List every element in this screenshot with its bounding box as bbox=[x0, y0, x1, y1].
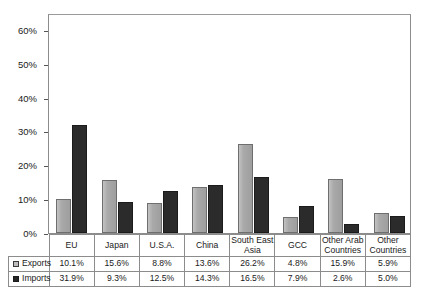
y-tick-label: 20% bbox=[18, 161, 37, 171]
bar-chart: 0%10%20%30%40%50%60% EUJapanU.S.A.ChinaS… bbox=[0, 0, 422, 299]
bar-imports bbox=[208, 185, 223, 233]
bar-imports bbox=[390, 216, 405, 233]
category-label-cell: U.S.A. bbox=[139, 235, 184, 257]
legend-item-exports[interactable]: Exports bbox=[9, 257, 50, 272]
bar-group bbox=[94, 15, 139, 233]
bar-group bbox=[321, 15, 366, 233]
bar-exports bbox=[374, 213, 389, 233]
y-tick-label: 50% bbox=[18, 60, 37, 70]
legend-label: Exports bbox=[22, 258, 51, 268]
category-label-line: Countries bbox=[321, 246, 365, 256]
legend-swatch-icon bbox=[13, 276, 19, 282]
data-cell: 16.5% bbox=[230, 272, 275, 287]
category-label-cell: South EastAsia bbox=[230, 235, 275, 257]
data-cell: 15.9% bbox=[320, 257, 365, 272]
category-label-line: Countries bbox=[366, 246, 410, 256]
data-table-body: EUJapanU.S.A.ChinaSouth EastAsiaGCCOther… bbox=[9, 235, 411, 287]
category-label-line: China bbox=[185, 241, 229, 251]
data-cell: 15.6% bbox=[94, 257, 139, 272]
data-cell: 4.8% bbox=[275, 257, 320, 272]
category-label-cell: EU bbox=[49, 235, 94, 257]
category-label-line: EU bbox=[50, 241, 94, 251]
bar-group bbox=[185, 15, 230, 233]
category-header-row: EUJapanU.S.A.ChinaSouth EastAsiaGCCOther… bbox=[9, 235, 411, 257]
bar-group bbox=[367, 15, 412, 233]
category-label-line: Asia bbox=[230, 246, 274, 256]
data-cell: 8.8% bbox=[139, 257, 184, 272]
bar-imports bbox=[344, 224, 359, 233]
category-label-cell: OtherCountries bbox=[365, 235, 410, 257]
data-cell: 2.6% bbox=[320, 272, 365, 287]
category-label-line: Japan bbox=[95, 241, 139, 251]
table-row: Imports31.9%9.3%12.5%14.3%16.5%7.9%2.6%5… bbox=[9, 272, 411, 287]
data-cell: 14.3% bbox=[185, 272, 230, 287]
bar-exports bbox=[238, 144, 253, 233]
bar-group bbox=[49, 15, 94, 233]
data-cell: 9.3% bbox=[94, 272, 139, 287]
bar-exports bbox=[283, 217, 298, 233]
category-label-cell: Japan bbox=[94, 235, 139, 257]
bar-imports bbox=[299, 206, 314, 233]
data-cell: 5.0% bbox=[365, 272, 410, 287]
y-tick-label: 30% bbox=[18, 127, 37, 137]
data-table: EUJapanU.S.A.ChinaSouth EastAsiaGCCOther… bbox=[8, 234, 411, 287]
bar-exports bbox=[56, 199, 71, 233]
bar-group bbox=[276, 15, 321, 233]
bar-imports bbox=[72, 125, 87, 233]
category-label-cell: GCC bbox=[275, 235, 320, 257]
category-label-line: GCC bbox=[275, 241, 319, 251]
bar-group bbox=[140, 15, 185, 233]
data-cell: 12.5% bbox=[139, 272, 184, 287]
category-label-line: U.S.A. bbox=[140, 241, 184, 251]
category-label-cell: China bbox=[185, 235, 230, 257]
data-cell: 5.9% bbox=[365, 257, 410, 272]
y-axis: 0%10%20%30%40%50%60% bbox=[0, 0, 44, 240]
bar-exports bbox=[147, 203, 162, 233]
bar-imports bbox=[118, 202, 133, 233]
y-tick-label: 10% bbox=[18, 195, 37, 205]
bar-imports bbox=[163, 191, 178, 233]
data-cell: 7.9% bbox=[275, 272, 320, 287]
bar-exports bbox=[192, 187, 207, 233]
category-label-cell: Other ArabCountries bbox=[320, 235, 365, 257]
legend-swatch-icon bbox=[13, 261, 19, 267]
y-tick-label: 40% bbox=[18, 94, 37, 104]
table-corner-cell bbox=[9, 235, 50, 257]
bar-exports bbox=[328, 179, 343, 233]
legend-label: Imports bbox=[22, 273, 51, 283]
y-tick-label: 60% bbox=[18, 26, 37, 36]
bar-group bbox=[231, 15, 276, 233]
data-cell: 10.1% bbox=[49, 257, 94, 272]
table-row: Exports10.1%15.6%8.8%13.6%26.2%4.8%15.9%… bbox=[9, 257, 411, 272]
bar-imports bbox=[254, 177, 269, 233]
bar-exports bbox=[102, 180, 117, 233]
plot-area bbox=[48, 14, 411, 234]
legend-item-imports[interactable]: Imports bbox=[9, 272, 50, 287]
data-cell: 26.2% bbox=[230, 257, 275, 272]
data-cell: 31.9% bbox=[49, 272, 94, 287]
bars-container bbox=[49, 15, 410, 233]
data-cell: 13.6% bbox=[185, 257, 230, 272]
